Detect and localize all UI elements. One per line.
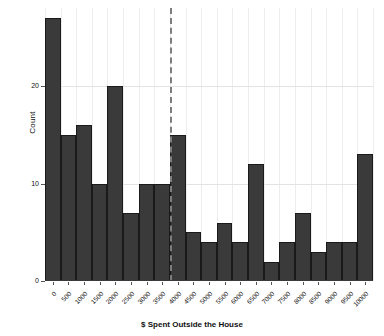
x-axis-tick-mark [178, 282, 179, 285]
gridline-vertical [326, 8, 327, 281]
x-axis-label: $ Spent Outside the House [0, 320, 384, 329]
x-axis-tick-mark [240, 282, 241, 285]
y-axis-tick-label: 0 [17, 277, 39, 284]
histogram-bar [107, 86, 123, 281]
histogram-bar [248, 164, 264, 281]
y-axis-tick-label: 10 [17, 180, 39, 187]
histogram-bar [170, 135, 186, 281]
x-axis-tick-mark [84, 282, 85, 285]
histogram-bar [295, 213, 311, 281]
histogram-bar [154, 184, 170, 282]
x-axis-tick-mark [256, 282, 257, 285]
x-axis-tick-mark [193, 282, 194, 285]
gridline-vertical [342, 8, 343, 281]
gridline-vertical [264, 8, 265, 281]
histogram-bar [342, 242, 358, 281]
histogram-bar [186, 232, 202, 281]
x-axis-tick-mark [287, 282, 288, 285]
histogram-bar [217, 223, 233, 282]
x-axis-line [45, 280, 373, 281]
x-axis-tick-mark [147, 282, 148, 285]
gridline-vertical [201, 8, 202, 281]
x-axis-tick-mark [334, 282, 335, 285]
histogram-bar [311, 252, 327, 281]
x-axis-tick-mark [209, 282, 210, 285]
histogram-bar [61, 135, 77, 281]
histogram-bar [357, 154, 373, 281]
x-axis-tick-mark [53, 282, 54, 285]
histogram-bar [139, 184, 155, 282]
histogram-bar [279, 242, 295, 281]
plot-area: 01020 0500100015002000250030003500400045… [45, 8, 373, 281]
x-axis-tick-mark [365, 282, 366, 285]
x-axis-tick-mark [303, 282, 304, 285]
histogram-bar [201, 242, 217, 281]
x-axis-tick-mark [100, 282, 101, 285]
gridline-vertical [311, 8, 312, 281]
histogram-bar [326, 242, 342, 281]
y-axis-tick-mark [41, 184, 45, 185]
y-axis-tick-mark [41, 86, 45, 87]
x-axis-tick-mark [350, 282, 351, 285]
x-axis-tick-mark [115, 282, 116, 285]
threshold-dashed-line [170, 8, 172, 281]
gridline-horizontal [45, 86, 373, 87]
y-axis-tick-label: 20 [17, 82, 39, 89]
x-axis-tick-mark [271, 282, 272, 285]
x-axis-tick-mark [225, 282, 226, 285]
x-axis-tick-mark [318, 282, 319, 285]
gridline-vertical [232, 8, 233, 281]
histogram-bar [123, 213, 139, 281]
y-axis-label: Count [28, 93, 37, 153]
gridline-vertical [373, 8, 374, 281]
gridline-vertical [279, 8, 280, 281]
y-axis-tick-mark [41, 281, 45, 282]
histogram-bar [45, 18, 61, 281]
histogram-bar [264, 262, 280, 282]
histogram-bar [76, 125, 92, 281]
histogram-chart: Count 01020 0500100015002000250030003500… [0, 0, 384, 336]
x-axis-tick-mark [162, 282, 163, 285]
histogram-bar [232, 242, 248, 281]
histogram-bar [92, 184, 108, 282]
x-axis-tick-mark [68, 282, 69, 285]
x-axis-tick-mark [131, 282, 132, 285]
